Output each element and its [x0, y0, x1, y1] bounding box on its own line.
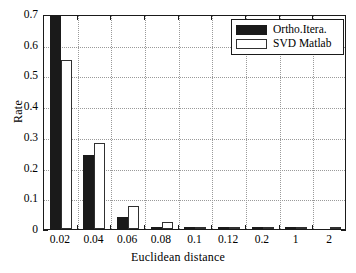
x-tick-label: 0.12 — [218, 233, 238, 245]
bar-group — [145, 16, 179, 229]
bar-svd-matlab — [296, 227, 307, 229]
bar-svd-matlab — [263, 227, 274, 229]
y-tick-label: 0.5 — [0, 70, 38, 82]
x-tick-mark — [178, 225, 179, 230]
bar-svd-matlab — [330, 227, 341, 229]
bar-ortho-itera — [151, 227, 162, 229]
y-tick-label: 0.3 — [0, 132, 38, 144]
y-tick-label: 0.7 — [0, 9, 38, 21]
x-tick-mark-top — [110, 15, 111, 20]
bar-group — [78, 16, 112, 229]
bar-svd-matlab — [61, 60, 72, 229]
bar-group — [179, 16, 213, 229]
bar-ortho-itera — [252, 227, 263, 229]
y-tick-label: 0.1 — [0, 193, 38, 205]
x-tick-mark-top — [178, 15, 179, 20]
x-axis-title: Euclidean distance — [0, 250, 356, 265]
x-tick-mark-top — [144, 15, 145, 20]
legend-swatch-ortho-itera — [236, 25, 267, 35]
bar-ortho-itera — [83, 155, 94, 229]
x-tick-mark — [110, 225, 111, 230]
y-tick-label: 0.2 — [0, 163, 38, 175]
y-tick-label: 0.6 — [0, 40, 38, 52]
x-tick-mark — [144, 225, 145, 230]
legend-label-ortho-itera: Ortho.Itera. — [273, 24, 327, 36]
bar-ortho-itera — [117, 217, 128, 229]
bar-group — [111, 16, 145, 229]
bar-svd-matlab — [128, 206, 139, 229]
x-tick-label: 1 — [293, 233, 299, 245]
x-tick-mark — [211, 225, 212, 230]
legend-label-svd-matlab: SVD Matlab — [273, 38, 331, 50]
bar-ortho-itera — [285, 227, 296, 229]
bar-svd-matlab — [162, 222, 173, 229]
bar-chart-figure: Rate 00.10.20.30.40.50.60.7 0.020.040.06… — [0, 0, 356, 273]
x-tick-label: 0.02 — [50, 233, 70, 245]
legend-item-ortho-itera: Ortho.Itera. — [236, 23, 339, 37]
chart-legend: Ortho.Itera. SVD Matlab — [231, 19, 344, 55]
x-tick-label: 0.06 — [117, 233, 137, 245]
bar-group — [44, 16, 78, 229]
y-tick-mark-right — [341, 230, 346, 231]
legend-swatch-svd-matlab — [236, 39, 267, 49]
x-tick-mark — [312, 225, 313, 230]
y-tick-label: 0.4 — [0, 101, 38, 113]
x-tick-label: 0.08 — [151, 233, 171, 245]
x-tick-mark — [279, 225, 280, 230]
bar-ortho-itera — [218, 227, 229, 229]
x-tick-mark — [77, 225, 78, 230]
legend-item-svd-matlab: SVD Matlab — [236, 37, 339, 51]
x-tick-mark-top — [211, 15, 212, 20]
x-tick-label: 0.04 — [83, 233, 103, 245]
bar-svd-matlab — [195, 227, 206, 229]
x-tick-label: 0.1 — [187, 233, 201, 245]
x-tick-mark-top — [77, 15, 78, 20]
bar-ortho-itera — [184, 227, 195, 229]
x-tick-label: 0.2 — [255, 233, 269, 245]
bar-svd-matlab — [94, 143, 105, 229]
x-tick-label: 2 — [326, 233, 332, 245]
y-tick-label: 0 — [0, 224, 38, 236]
x-tick-mark — [245, 225, 246, 230]
bar-svd-matlab — [229, 227, 240, 229]
bar-ortho-itera — [50, 15, 61, 229]
y-tick-mark — [43, 230, 48, 231]
